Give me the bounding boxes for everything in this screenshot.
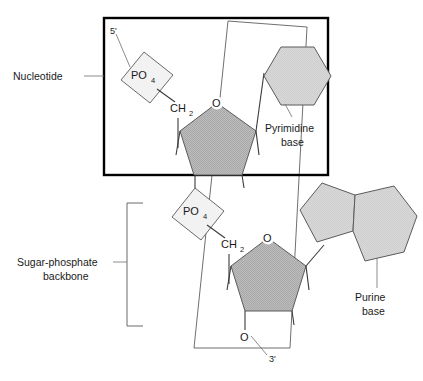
backbone-label-line2: backbone	[43, 270, 89, 282]
nucleotide-callout: Nucleotide	[13, 70, 104, 82]
phosphate-subscript-lower: 4	[203, 212, 207, 221]
three-prime-label: 3'	[269, 354, 276, 364]
oxygen-label-3prime: O	[240, 331, 249, 343]
purine-base-shape	[300, 183, 417, 261]
methylene-subscript-upper: 2	[189, 109, 193, 118]
sugar-stub-right-lower	[306, 266, 309, 290]
lower-nucleotide-group: PO 4 CH 2 O	[172, 163, 417, 344]
three-prime-marker: 3'	[251, 336, 276, 364]
phosphate-subscript-upper: 4	[151, 76, 155, 85]
purine-base-label-line1: Purine	[355, 291, 386, 303]
bond-sugar-to-pyrimidine	[256, 73, 264, 131]
figure-canvas: PO 4 CH 2 O	[0, 0, 423, 381]
pyrimidine-base-label-line1: Pyrimidine	[265, 122, 314, 134]
purine-pentagon	[300, 183, 355, 242]
purine-hexagon	[353, 186, 417, 261]
five-prime-label: 5'	[110, 26, 117, 36]
methylene-group-upper: CH 2	[170, 102, 193, 118]
oxygen-label-top-lower: O	[263, 232, 272, 244]
sugar-phosphate-callout: Sugar-phosphate backbone	[17, 203, 143, 326]
pyrimidine-leader-line	[285, 104, 292, 117]
nucleotide-diagram: PO 4 CH 2 O	[0, 0, 423, 381]
oxygen-label-upper: O	[212, 97, 221, 109]
phosphate-label-lower: PO	[183, 205, 199, 217]
nucleotide-label: Nucleotide	[13, 70, 63, 82]
methylene-subscript-lower: 2	[240, 245, 244, 254]
methylene-label-upper: CH	[170, 102, 186, 114]
pyrimidine-base-label-line2: base	[281, 136, 304, 148]
sugar-stub-bottom-right-lower	[292, 311, 294, 325]
backbone-bracket	[127, 203, 143, 326]
ring-oxygen-top-lower: O	[262, 232, 275, 245]
ring-oxygen-upper: O	[211, 97, 224, 110]
oxygen-3prime-group: O	[239, 331, 252, 344]
purine-base-label-line2: base	[362, 305, 385, 317]
bond-sugar-to-purine	[306, 245, 324, 266]
backbone-label-line1: Sugar-phosphate	[17, 256, 98, 268]
methylene-label-lower: CH	[221, 238, 237, 250]
bond-phosphate-ch2-upper	[157, 89, 175, 102]
three-prime-leader-line	[251, 336, 267, 355]
five-prime-leader-line	[116, 34, 130, 67]
sugar-stub-bottom-right-upper	[242, 175, 244, 188]
sugar-stub-right-upper	[256, 131, 259, 155]
bond-phosphate-ch2-lower	[207, 225, 225, 238]
pyrimidine-hexagon	[264, 47, 331, 105]
phosphate-label-upper: PO	[131, 69, 147, 81]
five-prime-marker: 5'	[110, 26, 130, 67]
methylene-group-lower: CH 2	[221, 238, 244, 254]
